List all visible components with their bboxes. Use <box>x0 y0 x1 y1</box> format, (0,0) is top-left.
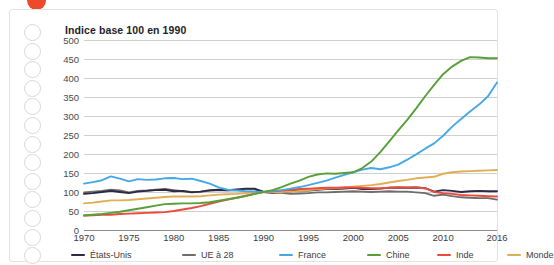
y-tick-label: 300 <box>63 111 79 122</box>
gridline <box>84 230 497 231</box>
y-tick-label: 150 <box>63 168 79 179</box>
binding-hole <box>24 247 41 264</box>
binding-hole <box>24 80 41 97</box>
legend-swatch-icon <box>367 254 381 257</box>
x-tick-label: 1975 <box>118 232 139 243</box>
legend-label: Monde <box>526 250 554 260</box>
x-tick-label: 1990 <box>253 232 274 243</box>
x-tick-label: 1970 <box>73 232 94 243</box>
legend-item[interactable]: États-Unis <box>71 250 132 260</box>
x-tick-label: 1985 <box>208 232 229 243</box>
y-tick-label: 100 <box>63 187 79 198</box>
x-tick-label: 2005 <box>388 232 409 243</box>
chart-legend: États-UnisUE à 28FranceChineIndeMonde <box>57 250 497 265</box>
legend-item[interactable]: France <box>279 250 326 260</box>
chart-card-panel: Indice base 100 en 1990 5004504003503002… <box>9 9 498 262</box>
plot-area: 500450400350300250200150100500 <box>57 40 497 230</box>
binding-hole <box>24 98 41 115</box>
x-tick-label: 1980 <box>163 232 184 243</box>
binding-hole <box>24 173 41 190</box>
x-axis-tick-labels: 1970197519801985199019952000200520102016 <box>84 232 497 246</box>
legend-swatch-icon <box>279 254 293 257</box>
binding-hole <box>24 136 41 153</box>
legend-item[interactable]: Inde <box>437 250 474 260</box>
x-tick-label: 2010 <box>433 232 454 243</box>
binding-hole <box>24 191 41 208</box>
legend-swatch-icon <box>182 254 196 257</box>
series-lines <box>84 40 497 230</box>
legend-label: UE à 28 <box>201 250 234 260</box>
y-axis-tick-labels: 500450400350300250200150100500 <box>57 40 79 230</box>
binding-hole <box>24 210 41 227</box>
y-tick-label: 450 <box>63 54 79 65</box>
y-tick-label: 200 <box>63 149 79 160</box>
grid-area <box>84 40 497 230</box>
y-tick-label: 50 <box>68 206 79 217</box>
legend-swatch-icon <box>71 254 85 257</box>
y-tick-label: 350 <box>63 92 79 103</box>
spiral-binding-holes <box>24 24 50 264</box>
legend-item[interactable]: Monde <box>507 250 554 260</box>
binding-hole <box>24 117 41 134</box>
legend-swatch-icon <box>507 254 521 257</box>
y-tick-label: 500 <box>63 35 79 46</box>
x-tick-label: 2016 <box>486 232 507 243</box>
y-tick-label: 400 <box>63 73 79 84</box>
legend-label: Chine <box>386 250 410 260</box>
legend-label: Inde <box>456 250 474 260</box>
x-tick-label: 2000 <box>343 232 364 243</box>
binding-hole <box>24 229 41 246</box>
y-tick-label: 250 <box>63 130 79 141</box>
legend-item[interactable]: UE à 28 <box>182 250 234 260</box>
legend-item[interactable]: Chine <box>367 250 410 260</box>
legend-swatch-icon <box>437 254 451 257</box>
legend-label: États-Unis <box>90 250 132 260</box>
binding-hole <box>24 61 41 78</box>
binding-hole <box>24 43 41 60</box>
chart-title: Indice base 100 en 1990 <box>65 24 186 36</box>
binding-hole <box>24 24 41 41</box>
legend-label: France <box>298 250 326 260</box>
x-tick-label: 1995 <box>298 232 319 243</box>
series-line <box>84 170 497 203</box>
binding-hole <box>24 154 41 171</box>
